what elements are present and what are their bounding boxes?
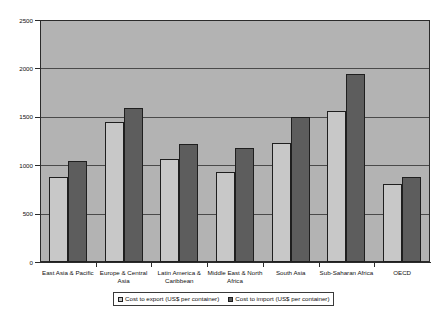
bar-import (124, 108, 143, 262)
y-axis-tick-label: 1000 (0, 162, 33, 169)
bar-import (235, 148, 254, 262)
export-swatch-icon (118, 297, 123, 302)
bar-import (179, 144, 198, 262)
bar-import (68, 161, 87, 262)
bar-export (105, 122, 124, 262)
legend-item-label: Cost to export (US$ per container) (125, 295, 219, 303)
bar-export (327, 111, 346, 262)
y-axis-tick-label: 2000 (0, 65, 33, 72)
y-axis-tick-label: 2500 (0, 17, 33, 24)
y-axis-tick (35, 68, 40, 69)
chart-legend: Cost to export (US$ per container)Cost t… (113, 292, 334, 306)
bar-import (291, 117, 310, 262)
x-axis-tick (319, 263, 320, 267)
bar-export (272, 143, 291, 262)
bar-chart: 05001000150020002500 East Asia & Pacific… (0, 0, 444, 320)
y-axis-line (40, 20, 41, 263)
x-axis-tick-label: OECD (374, 269, 430, 277)
x-axis-tick-label: Latin America & Caribbean (151, 269, 207, 285)
gridline (41, 117, 429, 118)
y-axis-tick (35, 20, 40, 21)
legend-item: Cost to import (US$ per container) (228, 295, 329, 303)
gridline (41, 68, 429, 69)
legend-item: Cost to export (US$ per container) (118, 295, 219, 303)
y-axis-tick (35, 214, 40, 215)
bar-export (160, 159, 179, 262)
bar-import (402, 177, 421, 262)
bar-export (216, 172, 235, 262)
y-axis-tick-label: 500 (0, 210, 33, 217)
x-axis-tick-label: East Asia & Pacific (40, 269, 96, 277)
y-axis-tick-label: 1500 (0, 113, 33, 120)
bar-export (49, 177, 68, 262)
x-axis-tick-label: Sub-Saharan Africa (319, 269, 375, 277)
x-axis-line (40, 262, 431, 263)
y-axis-tick (35, 165, 40, 166)
x-axis-tick (207, 263, 208, 267)
x-axis-tick (96, 263, 97, 267)
x-axis-tick-label: Europe & Central Asia (96, 269, 152, 285)
x-axis-tick (151, 263, 152, 267)
x-axis-tick-label: South Asia (263, 269, 319, 277)
bar-export (383, 184, 402, 262)
bar-import (346, 74, 365, 262)
import-swatch-icon (228, 297, 233, 302)
x-axis-tick (374, 263, 375, 267)
y-axis-tick (35, 117, 40, 118)
x-axis-tick-label: Middle East & North Africa (207, 269, 263, 285)
x-axis-tick (263, 263, 264, 267)
legend-item-label: Cost to import (US$ per container) (235, 295, 329, 303)
y-axis-tick-label: 0 (0, 259, 33, 266)
